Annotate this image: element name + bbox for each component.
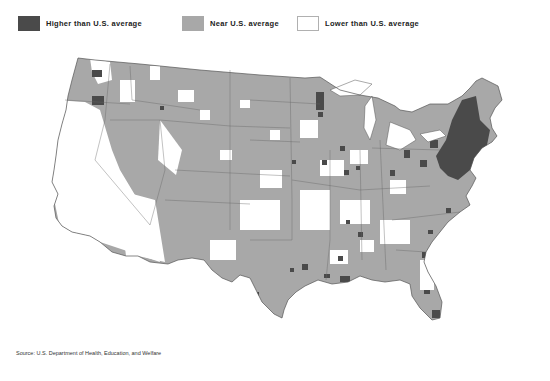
legend-swatch-higher [18,16,40,31]
source-credit: Source: U.S. Department of Health, Educa… [16,350,161,356]
map-legend: Higher than U.S. average Near U.S. avera… [0,0,550,40]
us-county-map [0,36,550,346]
legend-swatch-near [182,16,204,31]
legend-label-higher: Higher than U.S. average [46,19,142,28]
legend-label-lower: Lower than U.S. average [325,19,419,28]
legend-item-lower: Lower than U.S. average [297,16,419,31]
legend-label-near: Near U.S. average [210,19,279,28]
legend-swatch-lower [297,16,319,31]
legend-item-near: Near U.S. average [182,16,279,31]
legend-item-higher: Higher than U.S. average [18,16,142,31]
